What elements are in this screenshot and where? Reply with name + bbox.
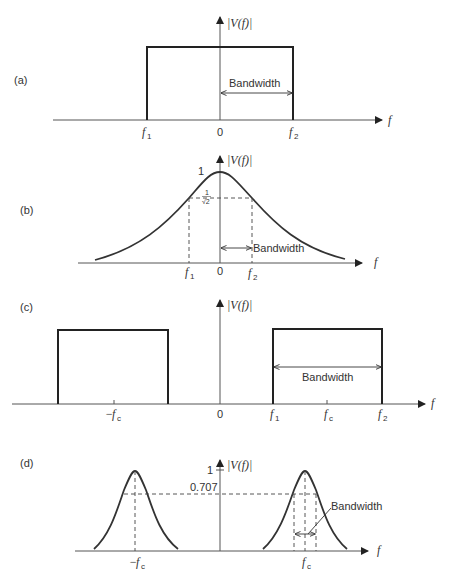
magnitude-axis-label: |V(f)|	[227, 458, 252, 472]
panel-d-label: (d)	[20, 457, 33, 469]
peak-label: 1	[198, 165, 204, 177]
svg-text:2: 2	[253, 273, 258, 282]
tick-label-fc: f c	[302, 555, 311, 571]
bandwidth-figure: (a) |V(f)| f Bandwidth f 1 0 f 2 (b) |V(…	[0, 0, 454, 578]
svg-text:√2: √2	[202, 198, 210, 205]
f-axis-label: f	[388, 113, 393, 127]
svg-text:2: 2	[294, 132, 299, 141]
tick-label-f2: f 2	[248, 266, 258, 282]
svg-text:c: c	[141, 562, 145, 571]
panel-b: (b) |V(f)| f 1 1 √2 Bandwidth f 1 0 f 2	[20, 153, 379, 282]
panel-a: (a) |V(f)| f Bandwidth f 1 0 f 2	[14, 16, 393, 141]
magnitude-axis-label: |V(f)|	[227, 298, 252, 312]
svg-text:c: c	[329, 414, 333, 423]
f-axis-label: f	[377, 543, 382, 557]
positive-band-rect	[273, 329, 382, 404]
panel-d: (d) 1 |V(f)| f 0.707 Bandwidth − f c f c	[20, 457, 382, 571]
svg-text:c: c	[117, 414, 121, 423]
half-power-value-label: 0.707	[190, 481, 218, 493]
tick-label-zero: 0	[217, 265, 223, 277]
svg-text:2: 2	[383, 414, 388, 423]
magnitude-axis-label: |V(f)|	[227, 16, 252, 30]
tick-label-neg-fc: − f c	[105, 407, 121, 423]
tick-label-fc: f c	[324, 407, 333, 423]
tick-label-zero: 0	[217, 126, 223, 138]
svg-text:1: 1	[147, 132, 152, 141]
half-power-label: 1 √2	[202, 189, 211, 205]
peak-label: 1	[207, 464, 213, 476]
f-axis-label: f	[431, 396, 436, 410]
panel-a-label: (a)	[14, 74, 27, 86]
svg-text:1: 1	[205, 189, 209, 196]
svg-text:c: c	[307, 562, 311, 571]
bandwidth-label: Bandwidth	[253, 242, 304, 254]
tick-label-neg-fc: − f c	[129, 555, 145, 571]
tick-label-f2: f 2	[289, 125, 299, 141]
tick-label-f2: f 2	[378, 407, 388, 423]
panel-c: (c) |V(f)| f Bandwidth − f c 0 f 1 f c f…	[12, 298, 436, 423]
bandwidth-label: Bandwidth	[331, 500, 382, 512]
panel-b-label: (b)	[20, 204, 33, 216]
svg-text:1: 1	[190, 272, 195, 281]
tick-label-f1: f 1	[185, 265, 195, 281]
magnitude-axis-label: |V(f)|	[227, 153, 252, 167]
svg-text:1: 1	[275, 414, 280, 423]
tick-label-f1: f 1	[142, 125, 152, 141]
bandwidth-label: Bandwidth	[302, 371, 353, 383]
negative-band-rect	[58, 330, 168, 404]
panel-c-label: (c)	[20, 301, 33, 313]
negative-bell-curve	[94, 471, 178, 549]
tick-label-f1: f 1	[270, 407, 280, 423]
f-axis-label: f	[374, 255, 379, 269]
bandwidth-label: Bandwidth	[229, 77, 280, 89]
tick-label-zero: 0	[217, 408, 223, 420]
